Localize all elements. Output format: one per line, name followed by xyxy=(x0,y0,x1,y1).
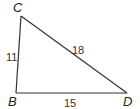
triangle-diagram: C B D 11 18 15 xyxy=(0,0,140,109)
side-label-cd: 18 xyxy=(72,44,84,56)
vertex-label-b: B xyxy=(8,94,17,109)
vertex-label-d: D xyxy=(123,94,132,109)
vertex-label-c: C xyxy=(13,0,23,15)
side-label-cb: 11 xyxy=(6,51,17,63)
side-label-bd: 15 xyxy=(64,97,76,109)
